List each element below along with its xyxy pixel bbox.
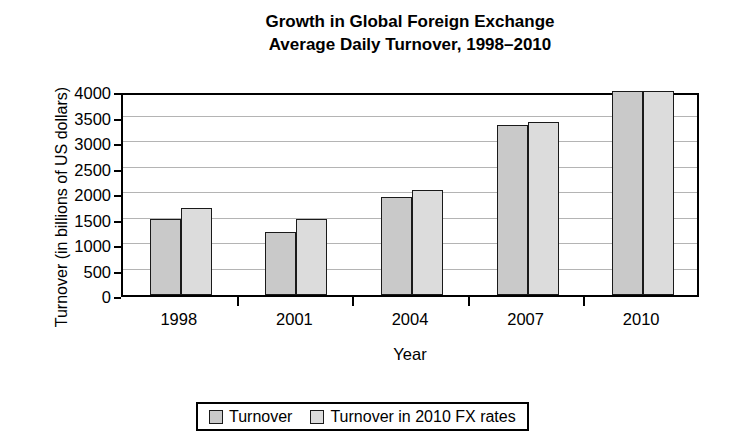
x-axis-tick xyxy=(583,297,585,306)
bar xyxy=(381,197,412,295)
y-axis-tick-label: 2500 xyxy=(51,160,111,179)
chart-title: Growth in Global Foreign Exchange Averag… xyxy=(120,10,700,56)
y-axis-tick-label: 1000 xyxy=(51,237,111,256)
legend-swatch-icon xyxy=(310,410,324,424)
y-axis-tick xyxy=(114,246,121,248)
y-axis-tick xyxy=(114,170,121,172)
bars-layer xyxy=(123,95,697,295)
bar xyxy=(497,125,528,295)
x-axis-tick xyxy=(468,297,470,306)
x-axis-tick xyxy=(237,297,239,306)
x-axis-title: Year xyxy=(121,345,699,364)
legend-item: Turnover xyxy=(209,408,292,426)
y-axis-tick xyxy=(114,93,121,95)
y-axis-tick-label: 1500 xyxy=(51,211,111,230)
y-axis-tick-label: 4000 xyxy=(51,84,111,103)
y-axis-tick-label: 0 xyxy=(51,288,111,307)
bar xyxy=(412,190,443,295)
legend-label: Turnover xyxy=(229,408,292,426)
bar xyxy=(528,122,559,295)
bar xyxy=(150,219,181,296)
chart-legend: TurnoverTurnover in 2010 FX rates xyxy=(196,402,529,431)
chart-figure: Growth in Global Foreign Exchange Averag… xyxy=(0,0,753,448)
x-axis-tick-label: 1998 xyxy=(160,310,197,329)
legend-label: Turnover in 2010 FX rates xyxy=(330,408,515,426)
y-axis-tick xyxy=(114,221,121,223)
x-axis-tick-label: 2001 xyxy=(276,310,313,329)
y-axis-tick xyxy=(114,119,121,121)
x-axis-tick-label: 2007 xyxy=(507,310,544,329)
x-axis-tick-label: 2010 xyxy=(623,310,660,329)
legend-swatch-icon xyxy=(209,410,223,424)
bar xyxy=(612,91,643,295)
chart-title-line-1: Growth in Global Foreign Exchange xyxy=(120,10,700,33)
y-axis-tick-label: 3000 xyxy=(51,135,111,154)
x-axis-tick-label: 2004 xyxy=(392,310,429,329)
y-axis-tick xyxy=(114,297,121,299)
y-axis-tick xyxy=(114,195,121,197)
y-axis-tick-label: 3500 xyxy=(51,109,111,128)
x-axis: 19982001200420072010 xyxy=(121,297,699,337)
x-axis-tick xyxy=(352,297,354,306)
plot-area xyxy=(121,93,699,297)
bar xyxy=(265,232,296,295)
y-axis-tick xyxy=(114,144,121,146)
y-axis-tick xyxy=(114,272,121,274)
legend-item: Turnover in 2010 FX rates xyxy=(310,408,515,426)
y-axis-tick-label: 2000 xyxy=(51,186,111,205)
y-axis-tick-label: 500 xyxy=(51,262,111,281)
bar xyxy=(643,91,674,295)
bar xyxy=(181,208,212,295)
bar xyxy=(296,219,327,296)
chart-title-line-2: Average Daily Turnover, 1998–2010 xyxy=(120,33,700,56)
